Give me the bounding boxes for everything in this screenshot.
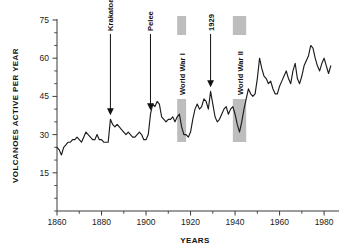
y-axis-title: VOLCANOES ACTIVE PER YEAR (11, 48, 20, 183)
annotation-label-3: 1929 (207, 14, 216, 31)
annotation-arrow-head-2 (147, 103, 154, 110)
chart-canvas: World War IWorld War II15304560751860188… (0, 0, 363, 252)
war-band-label-2: World War II (236, 51, 245, 95)
x-tick-label-1920: 1920 (181, 217, 200, 227)
x-axis-title: YEARS (180, 236, 210, 245)
war-band-label-1: World War I (178, 53, 187, 95)
y-tick-label-15: 15 (40, 168, 50, 178)
y-tick-label-75: 75 (40, 15, 50, 25)
data-series-line (57, 45, 331, 155)
x-tick-label-1860: 1860 (48, 217, 67, 227)
x-tick-label-1880: 1880 (92, 217, 111, 227)
y-tick-label-45: 45 (40, 91, 50, 101)
x-tick-label-1900: 1900 (137, 217, 156, 227)
war-band-top-2 (233, 16, 246, 35)
war-band-top-1 (177, 16, 186, 35)
x-tick-label-1980: 1980 (315, 217, 334, 227)
annotation-arrow-head-1 (107, 108, 114, 115)
x-tick-label-1960: 1960 (270, 217, 289, 227)
war-band-bottom-1 (177, 99, 186, 142)
annotation-arrow-head-3 (207, 80, 214, 87)
volcano-activity-chart: World War IWorld War II15304560751860188… (0, 0, 363, 252)
y-tick-label-60: 60 (40, 53, 50, 63)
y-tick-label-30: 30 (40, 130, 50, 140)
x-tick-label-1940: 1940 (226, 217, 245, 227)
annotation-label-2: Pelee (146, 11, 155, 31)
annotation-label-1: Krakatoa (106, 0, 115, 31)
